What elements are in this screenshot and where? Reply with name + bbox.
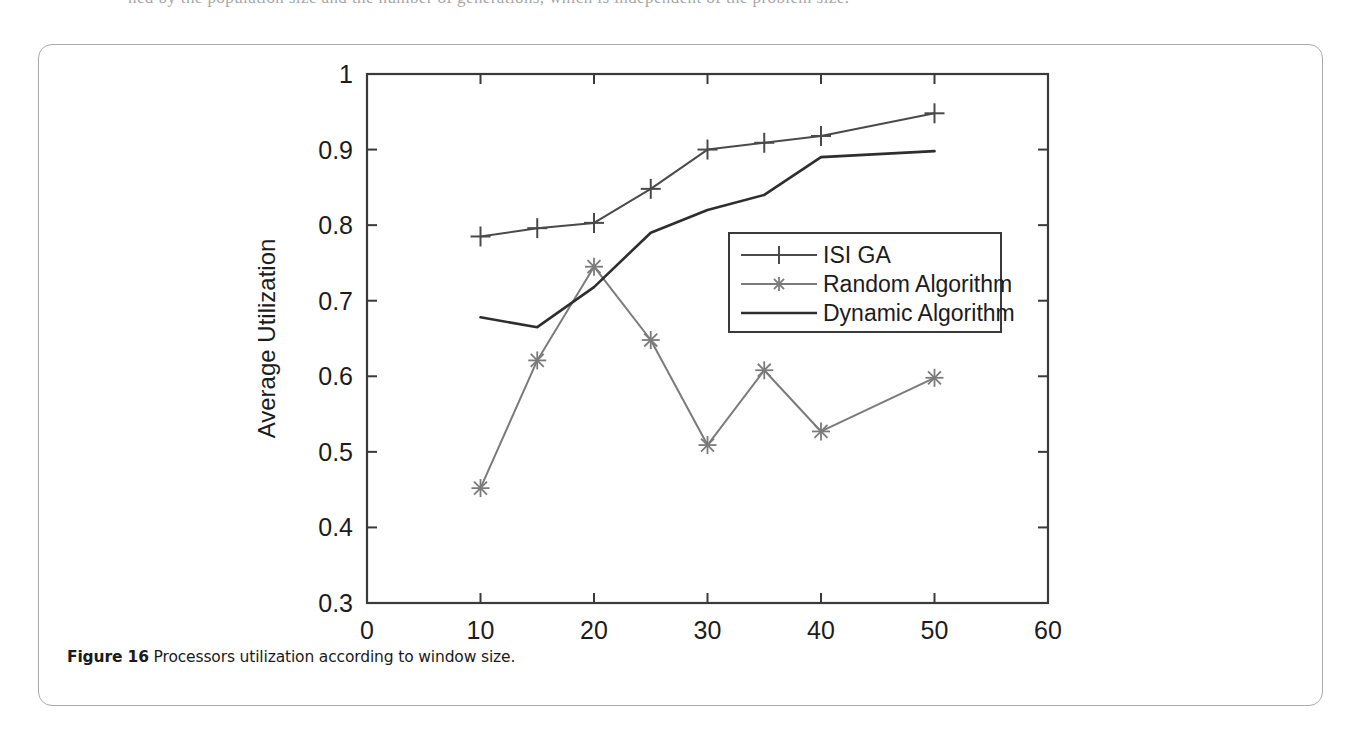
data-point xyxy=(471,226,491,246)
data-point xyxy=(925,103,945,123)
figure-caption: Figure 16 Processors utilization accordi… xyxy=(67,648,1302,666)
data-point xyxy=(472,479,490,497)
chart-legend: ISI GARandom AlgorithmDynamic Algorithm xyxy=(729,233,1015,332)
x-tick-label: 0 xyxy=(360,616,374,644)
legend-label: Random Algorithm xyxy=(823,271,1012,297)
y-tick-label: 0.9 xyxy=(318,136,353,164)
legend-label: ISI GA xyxy=(823,242,891,268)
page-root: ned by the population size and the numbe… xyxy=(0,0,1356,751)
y-tick-label: 0.8 xyxy=(318,211,353,239)
y-axis-title: Average Utilization xyxy=(253,239,280,439)
x-tick-label: 40 xyxy=(807,616,835,644)
y-tick-label: 1 xyxy=(339,60,353,88)
y-tick-label: 0.3 xyxy=(318,589,353,617)
data-point xyxy=(698,140,718,160)
series-line xyxy=(481,113,935,236)
data-point xyxy=(755,361,773,379)
data-point xyxy=(754,133,774,153)
cropped-body-text-line: ned by the population size and the numbe… xyxy=(0,0,849,8)
legend-label: Dynamic Algorithm xyxy=(823,300,1015,326)
data-point xyxy=(926,369,944,387)
data-point xyxy=(528,351,546,369)
x-tick-label: 60 xyxy=(1034,616,1062,644)
y-tick-label: 0.5 xyxy=(318,438,353,466)
y-tick-label: 0.4 xyxy=(318,513,353,541)
cropped-body-text: ned by the population size and the numbe… xyxy=(0,0,1356,14)
legend-marker-star-icon xyxy=(772,277,786,291)
x-tick-label: 30 xyxy=(694,616,722,644)
figure-caption-number: Figure 16 xyxy=(67,648,149,666)
data-point xyxy=(641,179,661,199)
data-point xyxy=(527,218,547,238)
data-point xyxy=(699,436,717,454)
y-tick-label: 0.6 xyxy=(318,362,353,390)
data-point xyxy=(585,258,603,276)
y-tick-label: 0.7 xyxy=(318,287,353,315)
x-tick-label: 50 xyxy=(921,616,949,644)
figure-caption-text: Processors utilization according to wind… xyxy=(154,648,516,666)
figure-card: 01020304050600.30.40.50.60.70.80.91Windo… xyxy=(38,44,1323,706)
x-tick-label: 20 xyxy=(580,616,608,644)
data-point xyxy=(642,331,660,349)
data-point xyxy=(811,126,831,146)
data-point xyxy=(812,422,830,440)
data-point xyxy=(584,213,604,233)
chart-plot-area: 01020304050600.30.40.50.60.70.80.91Windo… xyxy=(39,45,1324,645)
line-chart: 01020304050600.30.40.50.60.70.80.91Windo… xyxy=(39,45,1324,645)
x-tick-label: 10 xyxy=(467,616,495,644)
series-isi-ga xyxy=(471,103,945,246)
